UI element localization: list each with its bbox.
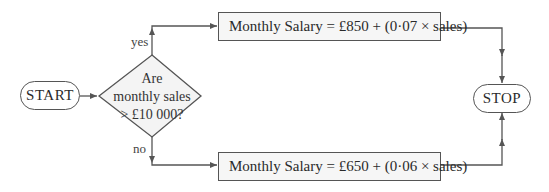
yes-label: yes: [131, 34, 148, 50]
decision-line-3: > £10 000?: [104, 106, 200, 124]
no-label: no: [133, 141, 146, 157]
decision-line-2: monthly sales: [104, 88, 200, 106]
stop-node: STOP: [473, 84, 531, 113]
salary-yes-box: Monthly Salary = £850 + (0·07 × sales): [218, 12, 441, 41]
salary-yes-formula: Monthly Salary = £850 + (0·07 × sales): [229, 18, 467, 35]
decision-line-1: Are: [104, 70, 200, 88]
salary-no-box: Monthly Salary = £650 + (0·06 × sales): [218, 152, 441, 181]
start-node: START: [20, 81, 80, 110]
start-label: START: [26, 87, 74, 104]
salary-no-formula: Monthly Salary = £650 + (0·06 × sales): [229, 158, 467, 175]
decision-text: Are monthly sales > £10 000?: [104, 70, 200, 124]
stop-label: STOP: [483, 90, 521, 107]
